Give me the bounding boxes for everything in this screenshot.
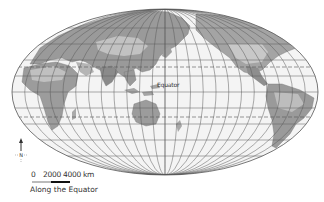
north-arrow: N xyxy=(14,138,28,164)
scale-tick-0: 0 xyxy=(31,170,35,179)
scale-tick-4000: 4000 km xyxy=(63,170,94,179)
scale-segment-dark xyxy=(51,181,70,183)
scale-bar: 0 2000 4000 km Along the Equator xyxy=(30,170,140,200)
north-label: N xyxy=(19,152,23,158)
equator-label: Equator xyxy=(157,81,179,88)
landmass-australia xyxy=(132,100,160,126)
landmass-greenland xyxy=(298,14,318,34)
scale-tick-2000: 2000 xyxy=(43,170,61,179)
scale-segment-light xyxy=(32,181,51,183)
scale-caption: Along the Equator xyxy=(30,185,98,194)
